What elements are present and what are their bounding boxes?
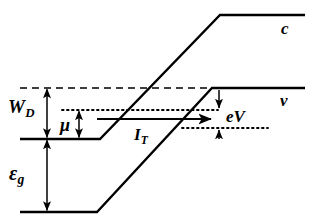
label-bias-voltage: eV xyxy=(226,108,245,125)
label-chemical-potential: μ xyxy=(60,116,70,134)
label-conduction-band: c xyxy=(281,20,289,37)
label-band-gap: εg xyxy=(9,163,24,187)
label-tunnel-current: IT xyxy=(134,126,148,146)
label-valence-band: v xyxy=(280,92,288,109)
label-depletion-width: WD xyxy=(8,97,34,120)
band-diagram-canvas xyxy=(0,0,312,224)
band-diagram-figure: WD εg μ IT eV c v xyxy=(0,0,312,224)
